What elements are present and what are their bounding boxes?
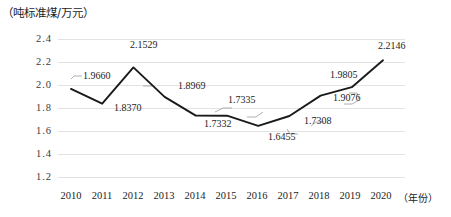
data-label: 1.9805 xyxy=(330,69,358,80)
data-label: 1.7335 xyxy=(228,94,256,105)
data-label: 2.2146 xyxy=(378,40,406,51)
data-label: 1.7332 xyxy=(204,118,232,129)
data-label: 1.8370 xyxy=(114,102,142,113)
x-tick-label: 2020 xyxy=(361,190,401,201)
data-label: 1.8969 xyxy=(178,80,206,91)
data-label: 1.9660 xyxy=(83,70,111,81)
plot-area xyxy=(0,0,451,217)
data-label: 1.6455 xyxy=(268,131,296,142)
x-axis-title: （年份） xyxy=(398,190,438,205)
line-chart: （吨标准煤/万元） 2.4 2.2 2.0 1.8 1.6 1.4 1.2 1.… xyxy=(0,0,451,217)
data-label: 1.7308 xyxy=(304,115,332,126)
data-label: 1.9076 xyxy=(333,92,361,103)
data-label: 2.1529 xyxy=(130,39,158,50)
